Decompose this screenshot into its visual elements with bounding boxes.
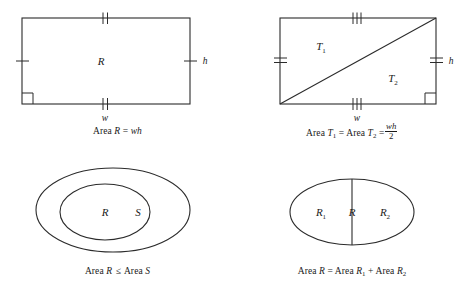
right-angle-marker-icon: [22, 93, 33, 104]
caption-additive-regions: Area R = Area R1 + Area R2: [235, 266, 469, 277]
caption-part-r2-sub: 2: [403, 270, 407, 277]
caption-term-t2-sub: 2: [373, 132, 377, 139]
caption-part-r1-sub: 1: [362, 270, 366, 277]
caption-term-s: S: [145, 266, 150, 276]
caption-relation-2: =: [379, 128, 384, 138]
fraction-denominator: 2: [385, 132, 397, 141]
caption-expression: wh: [131, 126, 142, 136]
width-label-w: w: [102, 113, 109, 123]
figure-nested-regions: R S Area R ≤ Area S: [0, 150, 235, 293]
caption-prefix-2: Area: [124, 266, 145, 276]
right-angle-marker-icon: [425, 93, 436, 104]
region-label-t1: T1: [316, 40, 326, 55]
caption-whole-r: R: [319, 266, 325, 276]
region-label-s: S: [135, 206, 141, 218]
figure-triangle-halves: T1 T2 w h Area T1 = Area T2 =wh2: [235, 0, 469, 150]
height-label-h: h: [203, 56, 208, 66]
caption-region: R: [114, 126, 120, 136]
caption-operator: +: [368, 266, 373, 276]
caption-relation-1: =: [339, 128, 344, 138]
rectangle-outline: [22, 18, 190, 104]
height-label-h: h: [449, 56, 454, 66]
caption-prefix-2: Area: [346, 128, 367, 138]
caption-fraction: wh2: [385, 122, 397, 141]
region-label-r: R: [348, 206, 356, 218]
figure-grid: R w h Area R = wh: [0, 0, 469, 293]
region-label-r2: R2: [379, 206, 391, 221]
caption-nested-regions: Area R ≤ Area S: [0, 266, 235, 276]
caption-relation: =: [327, 266, 332, 276]
region-label-r: R: [97, 55, 105, 67]
fraction-numerator: wh: [385, 122, 397, 132]
caption-prefix-2: Area: [335, 266, 356, 276]
region-label-r: R: [101, 206, 109, 218]
caption-prefix-1: Area: [298, 266, 319, 276]
diagonal-line: [280, 18, 436, 104]
caption-term-r: R: [106, 266, 112, 276]
caption-rectangle-area: Area R = wh: [0, 126, 235, 136]
caption-relation-leq: ≤: [115, 266, 122, 276]
region-label-t2: T2: [388, 72, 398, 87]
caption-prefix-1: Area: [306, 128, 327, 138]
region-label-r1: R1: [315, 206, 327, 221]
caption-prefix: Area: [93, 126, 114, 136]
caption-triangle-halves: Area T1 = Area T2 =wh2: [235, 122, 469, 141]
figure-additive-regions: R1 R R2 Area R = Area R1 + Area R2: [235, 150, 469, 293]
caption-prefix-3: Area: [376, 266, 397, 276]
caption-term-t1-sub: 1: [333, 132, 337, 139]
caption-relation: =: [123, 126, 128, 136]
caption-prefix-1: Area: [85, 266, 106, 276]
figure-rectangle-area: R w h Area R = wh: [0, 0, 235, 150]
